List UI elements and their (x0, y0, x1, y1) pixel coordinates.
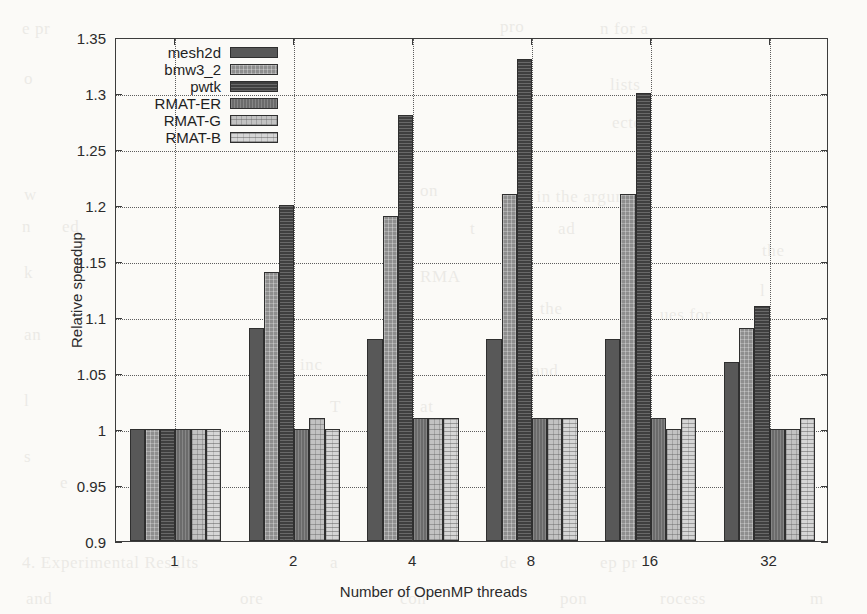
x-axis-tick-mark (650, 38, 651, 45)
y-axis-tick-label: 1.05 (46, 366, 106, 383)
bar (367, 339, 382, 541)
legend-item: RMAT-ER (135, 95, 278, 112)
y-axis-tick-mark (821, 318, 828, 319)
y-axis-tick-mark (115, 430, 122, 431)
x-axis-tick-label: 32 (729, 552, 809, 569)
y-axis-tick-mark (821, 206, 828, 207)
bar (605, 339, 620, 541)
legend-item-label: pwtk (135, 78, 230, 95)
bar (620, 194, 635, 541)
legend-item: bmw3_2 (135, 61, 278, 78)
y-axis-label: Relative speedup (68, 190, 85, 390)
gridline-horizontal (116, 263, 827, 264)
legend-item-label: RMAT-ER (135, 95, 230, 112)
legend-item-label: RMAT-G (135, 112, 230, 129)
bar (636, 93, 651, 541)
gridline-horizontal (116, 375, 827, 376)
bar (428, 418, 443, 541)
x-axis-tick-mark (174, 535, 175, 542)
legend-color-swatch (230, 64, 278, 75)
gridline-horizontal (116, 151, 827, 152)
bar (547, 418, 562, 541)
legend-item-label: RMAT-B (135, 129, 230, 146)
x-axis-tick-label: 4 (372, 552, 452, 569)
y-axis-tick-mark (821, 262, 828, 263)
y-axis-tick-mark (821, 150, 828, 151)
legend-color-swatch (230, 132, 278, 143)
bar (739, 328, 754, 541)
y-axis-tick-mark (115, 38, 122, 39)
gridline-horizontal (116, 207, 827, 208)
y-axis-tick-mark (821, 374, 828, 375)
bar (724, 362, 739, 541)
legend-item-label: mesh2d (135, 44, 230, 61)
bar (325, 429, 340, 541)
bar (294, 429, 309, 541)
bar (800, 418, 815, 541)
bar (532, 418, 547, 541)
x-axis-tick-mark (412, 535, 413, 542)
bar (145, 429, 160, 541)
x-axis-tick-mark (531, 535, 532, 542)
bar (383, 216, 398, 541)
bar (517, 59, 532, 541)
legend-color-swatch (230, 47, 278, 58)
gridline-horizontal (116, 487, 827, 488)
legend-item: RMAT-G (135, 112, 278, 129)
y-axis-tick-label: 1.3 (46, 86, 106, 103)
x-axis-tick-mark (531, 38, 532, 45)
bar (651, 418, 666, 541)
x-axis-tick-mark (412, 38, 413, 45)
y-axis-tick-mark (115, 262, 122, 263)
y-axis-tick-label: 1.15 (46, 254, 106, 271)
bar (309, 418, 324, 541)
y-axis-tick-label: 1.25 (46, 142, 106, 159)
bar (770, 429, 785, 541)
y-axis-tick-label: 1.2 (46, 198, 106, 215)
legend-item: pwtk (135, 78, 278, 95)
bar (191, 429, 206, 541)
y-axis-tick-mark (821, 486, 828, 487)
x-axis-tick-mark (769, 535, 770, 542)
y-axis-tick-label: 1.35 (46, 30, 106, 47)
bar (666, 429, 681, 541)
bar (562, 418, 577, 541)
y-axis-tick-mark (115, 94, 122, 95)
legend-color-swatch (230, 81, 278, 92)
y-axis-tick-mark (821, 94, 828, 95)
bar (160, 429, 175, 541)
y-axis-tick-mark (115, 542, 122, 543)
bar (175, 429, 190, 541)
legend-color-swatch (230, 115, 278, 126)
x-axis-tick-mark (650, 535, 651, 542)
y-axis-tick-mark (821, 430, 828, 431)
bar (413, 418, 428, 541)
x-axis-tick-mark (293, 38, 294, 45)
y-axis-tick-mark (115, 150, 122, 151)
bar (502, 194, 517, 541)
x-axis-tick-label: 1 (134, 552, 214, 569)
x-axis-tick-label: 2 (253, 552, 333, 569)
y-axis-tick-label: 0.95 (46, 478, 106, 495)
bar (130, 429, 145, 541)
x-axis-tick-mark (769, 38, 770, 45)
y-axis-tick-label: 1 (46, 422, 106, 439)
gridline-horizontal (116, 431, 827, 432)
bar (398, 115, 413, 541)
y-axis-tick-mark (115, 206, 122, 207)
bar (264, 272, 279, 541)
x-axis-tick-label: 8 (491, 552, 571, 569)
y-axis-tick-mark (821, 38, 828, 39)
bar (249, 328, 264, 541)
y-axis-tick-mark (115, 486, 122, 487)
x-axis-tick-mark (293, 535, 294, 542)
bar (206, 429, 221, 541)
x-axis-label: Number of OpenMP threads (0, 583, 867, 600)
bar-chart-figure: Relative speedup 0.90.9511.051.11.151.21… (0, 0, 867, 614)
bar (486, 339, 501, 541)
y-axis-tick-mark (115, 374, 122, 375)
legend-item: mesh2d (135, 44, 278, 61)
bar (279, 205, 294, 541)
legend-color-swatch (230, 98, 278, 109)
x-axis-tick-label: 16 (610, 552, 690, 569)
